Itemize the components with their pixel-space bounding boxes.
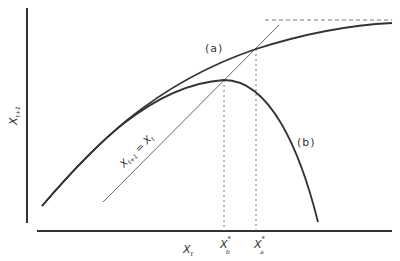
svg-text:Xt+1 = Xt: Xt+1 = Xt [117,131,156,170]
x-axis-label: Xt [182,243,194,257]
svg-text:Xt+1: Xt+1 [7,106,21,126]
diagram-canvas: (a) (b) Xt+1 = Xt Xt+1 Xt X*b X*a [0,0,400,261]
identity-line [103,25,279,202]
curve-b [42,80,318,222]
curve-a-label: (a) [205,42,223,55]
y-axis-label: Xt+1 [7,106,21,126]
equilibrium-a-label: X*a [253,235,266,255]
equilibrium-b-label: X*b [219,235,232,255]
identity-line-label: Xt+1 = Xt [117,131,156,170]
curve-b-label: (b) [297,136,316,149]
